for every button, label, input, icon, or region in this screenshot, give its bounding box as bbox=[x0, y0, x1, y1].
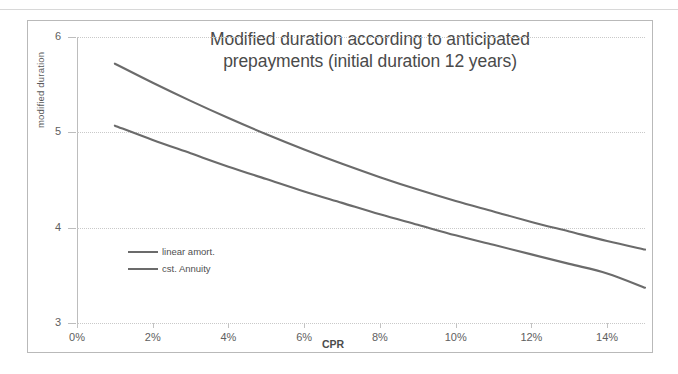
x-tick-label: 8% bbox=[360, 332, 400, 343]
x-tick-label: 6% bbox=[284, 332, 324, 343]
chart-page: Modified duration according to anticipat… bbox=[0, 0, 678, 374]
y-tick-label: 5 bbox=[35, 126, 61, 137]
series-lines bbox=[77, 37, 645, 323]
x-axis-title: CPR bbox=[322, 338, 344, 350]
legend-label: linear amort. bbox=[162, 247, 215, 257]
x-tick bbox=[153, 323, 154, 328]
gridline bbox=[77, 323, 645, 324]
x-tick-label: 10% bbox=[436, 332, 476, 343]
y-tick-label: 4 bbox=[35, 222, 61, 233]
x-tick bbox=[304, 323, 305, 328]
plot-area bbox=[77, 37, 645, 323]
x-tick-label: 0% bbox=[57, 332, 97, 343]
y-tick-label: 6 bbox=[35, 31, 61, 42]
legend-swatch-icon bbox=[128, 268, 158, 270]
legend-item-cst-annuity: cst. Annuity bbox=[128, 260, 215, 277]
y-tick-label: 3 bbox=[35, 317, 61, 328]
x-tick bbox=[456, 323, 457, 328]
page-top-rule bbox=[0, 9, 678, 10]
legend-swatch-icon bbox=[128, 251, 158, 253]
x-tick bbox=[531, 323, 532, 328]
x-tick-label: 14% bbox=[587, 332, 627, 343]
y-tick bbox=[68, 323, 76, 324]
x-tick-label: 4% bbox=[208, 332, 248, 343]
legend-label: cst. Annuity bbox=[162, 264, 211, 274]
x-tick bbox=[607, 323, 608, 328]
x-tick bbox=[228, 323, 229, 328]
x-tick-label: 12% bbox=[511, 332, 551, 343]
x-tick bbox=[77, 323, 78, 328]
x-tick-label: 2% bbox=[133, 332, 173, 343]
series-line-linear-amort bbox=[115, 64, 645, 250]
y-tick bbox=[68, 37, 76, 38]
y-tick bbox=[68, 228, 76, 229]
legend-item-linear-amort: linear amort. bbox=[128, 243, 215, 260]
y-tick bbox=[68, 132, 76, 133]
y-axis-title: modified duration bbox=[35, 52, 46, 128]
chart-legend: linear amort. cst. Annuity bbox=[128, 243, 215, 277]
x-tick bbox=[380, 323, 381, 328]
